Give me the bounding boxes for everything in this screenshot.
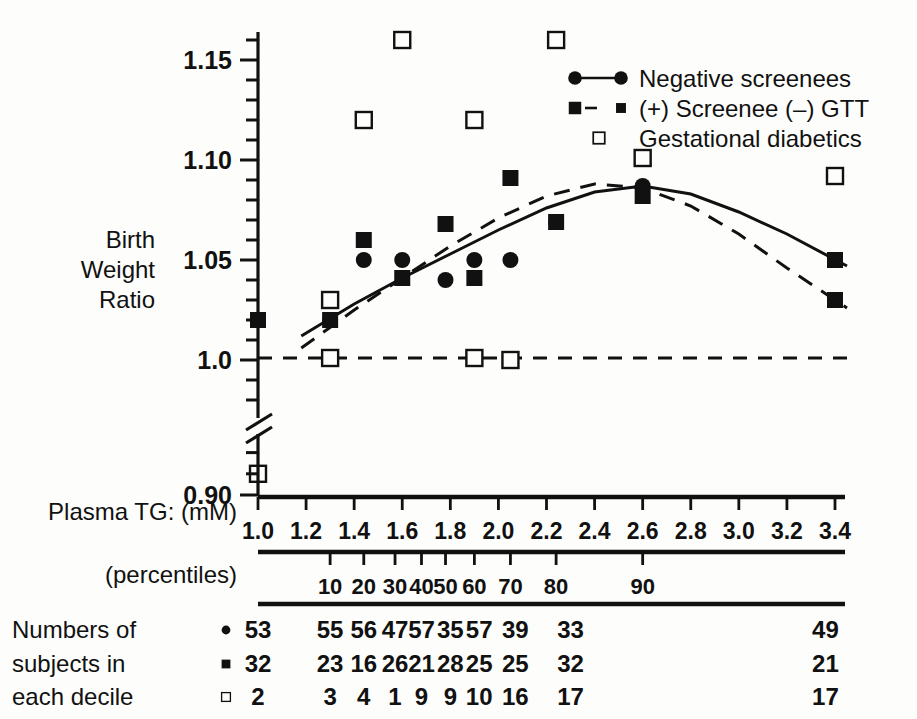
- table-cell-2-0: 2: [251, 683, 264, 710]
- x-tick-label-2.2: 2.2: [531, 518, 563, 544]
- table-title-line-3: each decile: [12, 683, 133, 710]
- table-row-marker-1: [222, 660, 231, 669]
- x-tick-label-2.4: 2.4: [579, 518, 611, 544]
- percentile-tick-label-10: 10: [318, 574, 342, 599]
- data-point-2-2: [322, 350, 338, 366]
- table-cell-0-5: 35: [437, 616, 464, 643]
- percentile-axis-title: (percentiles): [105, 561, 237, 588]
- table-cell-0-3: 47: [382, 616, 409, 643]
- legend-marker-open-square: [593, 132, 605, 144]
- table-cell-2-2: 4: [357, 683, 371, 710]
- x-tick-label-3.4: 3.4: [819, 518, 851, 544]
- data-point-1-10: [827, 292, 843, 308]
- figure-root: Birth Weight Ratio Negative screenees(+)…: [0, 0, 917, 719]
- x-tick-label-3.2: 3.2: [771, 518, 803, 544]
- x-tick-label-3.0: 3.0: [723, 518, 755, 544]
- data-point-1-5: [466, 270, 482, 286]
- table-cell-1-4: 21: [408, 650, 435, 677]
- data-point-0-5: [466, 252, 482, 268]
- table-cell-2-4: 9: [415, 683, 428, 710]
- table-title: Numbers of subjects in each decile: [12, 616, 136, 710]
- y-tick-label-1.10: 1.10: [183, 146, 232, 174]
- x-tick-label-1.8: 1.8: [434, 518, 466, 544]
- legend-label-1: (+) Screenee (–) GTT: [639, 95, 869, 122]
- data-point-2-6: [466, 350, 482, 366]
- percentile-tick-label-20: 20: [352, 574, 376, 599]
- legend-marker-filled-circle-left: [568, 71, 582, 85]
- percentile-tick-label-80: 80: [544, 574, 568, 599]
- table-title-line-1: Numbers of: [12, 616, 136, 643]
- data-point-0-3: [394, 252, 410, 268]
- data-point-1-6: [502, 170, 518, 186]
- data-point-1-3: [394, 270, 410, 286]
- x-tick-label-1.4: 1.4: [338, 518, 370, 544]
- y-tick-label-1.0: 1.0: [197, 346, 232, 374]
- table-row-marker-0: [222, 626, 231, 635]
- table-cell-2-3: 1: [388, 683, 401, 710]
- x-tick-label-1.6: 1.6: [386, 518, 418, 544]
- table-cell-0-4: 57: [408, 616, 435, 643]
- table-cell-0-9: 49: [812, 616, 839, 643]
- legend-marker-filled-square-left: [569, 102, 581, 114]
- table-cell-1-9: 21: [812, 650, 839, 677]
- percentile-tick-label-60: 60: [462, 574, 486, 599]
- table-cell-1-8: 32: [557, 650, 584, 677]
- table-cell-0-8: 33: [557, 616, 584, 643]
- data-point-2-5: [466, 112, 482, 128]
- data-point-2-8: [548, 32, 564, 48]
- data-point-1-7: [548, 214, 564, 230]
- y-axis-title-line-2: Weight: [81, 256, 156, 283]
- data-point-1-4: [438, 216, 454, 232]
- table-cell-2-1: 3: [323, 683, 336, 710]
- table-cell-0-1: 55: [317, 616, 344, 643]
- x-tick-label-1.0: 1.0: [242, 518, 274, 544]
- y-axis-title-line-1: Birth: [106, 226, 155, 253]
- data-point-0-2: [356, 252, 372, 268]
- data-point-1-8: [635, 188, 651, 204]
- table-cell-1-6: 25: [466, 650, 493, 677]
- y-tick-label-0.90: 0.90: [183, 481, 232, 509]
- percentile-tick-label-40: 40: [409, 574, 433, 599]
- percentile-tick-label-70: 70: [498, 574, 522, 599]
- birth-weight-ratio-chart: Birth Weight Ratio Negative screenees(+)…: [0, 0, 917, 719]
- percentile-tick-label-30: 30: [383, 574, 407, 599]
- table-cell-2-6: 10: [466, 683, 493, 710]
- table-cell-2-8: 17: [557, 683, 584, 710]
- table-cell-1-1: 23: [317, 650, 344, 677]
- x-tick-label-1.2: 1.2: [290, 518, 322, 544]
- legend-marker-filled-circle-right: [614, 71, 628, 85]
- data-point-2-1: [322, 292, 338, 308]
- y-tick-label-1.05: 1.05: [183, 246, 232, 274]
- data-point-2-4: [394, 32, 410, 48]
- table-cell-2-5: 9: [444, 683, 457, 710]
- x-tick-label-2.8: 2.8: [675, 518, 707, 544]
- data-point-1-9: [827, 252, 843, 268]
- data-point-1-1: [322, 312, 338, 328]
- percentile-tick-label-50: 50: [433, 574, 457, 599]
- table-cell-0-2: 56: [350, 616, 377, 643]
- percentile-tick-label-90: 90: [630, 574, 654, 599]
- legend-label-0: Negative screenees: [639, 65, 851, 92]
- y-tick-label-1.15: 1.15: [183, 46, 232, 74]
- y-axis-title-line-3: Ratio: [99, 286, 155, 313]
- table-cell-1-7: 25: [502, 650, 529, 677]
- table-cell-0-6: 57: [466, 616, 493, 643]
- data-point-2-7: [502, 352, 518, 368]
- data-point-1-2: [356, 232, 372, 248]
- table-cell-0-0: 53: [245, 616, 272, 643]
- table-cell-1-3: 26: [382, 650, 409, 677]
- legend-marker-filled-square-right: [616, 103, 626, 113]
- data-point-0-4: [438, 272, 454, 288]
- legend-label-2: Gestational diabetics: [639, 125, 862, 152]
- data-point-2-9: [635, 150, 651, 166]
- table-cell-2-9: 17: [812, 683, 839, 710]
- table-row-marker-2: [222, 693, 231, 702]
- x-tick-label-2.6: 2.6: [627, 518, 659, 544]
- x-tick-label-2.0: 2.0: [482, 518, 514, 544]
- table-cell-1-0: 32: [245, 650, 272, 677]
- table-title-line-2: subjects in: [12, 650, 125, 677]
- data-point-0-6: [502, 252, 518, 268]
- table-cell-0-7: 39: [502, 616, 529, 643]
- table-cell-2-7: 16: [502, 683, 529, 710]
- table-cell-1-5: 28: [437, 650, 464, 677]
